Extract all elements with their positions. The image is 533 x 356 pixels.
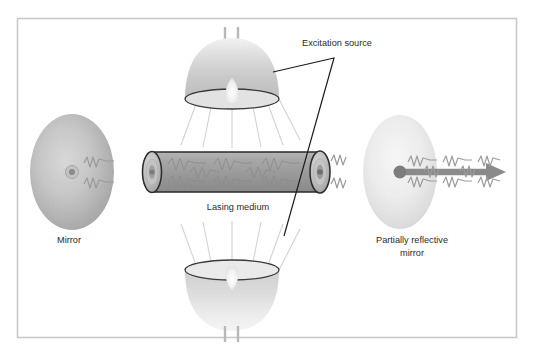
excitation-source-leader [273,58,334,236]
label-mirror: Mirror [57,235,81,245]
label-partially-reflective-mirror-line1: Partially reflective [376,235,448,245]
tube-cap-left [143,152,162,193]
laser-diagram: Excitation source Lasing medium Mirror P… [0,0,533,356]
tube-body [143,152,327,192]
excitation-lamp-bottom[interactable] [185,260,279,342]
label-lasing-medium: Lasing medium [207,202,270,212]
excitation-lamp-top[interactable] [185,27,279,109]
diagram-canvas: Excitation source Lasing medium Mirror P… [0,0,533,356]
label-partially-reflective-mirror-line2: mirror [400,248,424,258]
label-excitation-source: Excitation source [302,38,372,48]
